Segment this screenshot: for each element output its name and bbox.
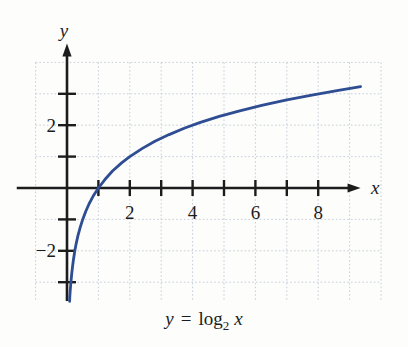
caption-log-base: 2 bbox=[223, 318, 230, 333]
x-tick-label: 2 bbox=[125, 202, 135, 223]
y-tick-label: 2 bbox=[47, 115, 57, 136]
x-tick-label: 4 bbox=[188, 202, 198, 223]
caption-var-y: y bbox=[165, 308, 173, 329]
figure-log2-plot: 24682−2 y x y=log2x bbox=[0, 0, 408, 347]
caption-log: log bbox=[198, 308, 222, 329]
figure-caption: y=log2x bbox=[0, 308, 408, 332]
x-tick-label: 8 bbox=[313, 202, 323, 223]
plot-svg: 24682−2 bbox=[0, 0, 408, 347]
y-axis-arrow-icon bbox=[62, 44, 71, 57]
y-tick-label: −2 bbox=[36, 240, 56, 261]
x-axis-label: x bbox=[371, 178, 379, 197]
y-axis-label: y bbox=[54, 21, 74, 40]
caption-equals: = bbox=[181, 308, 192, 329]
x-tick-label: 6 bbox=[251, 202, 261, 223]
caption-var-x: x bbox=[234, 308, 242, 329]
log2-curve bbox=[70, 87, 361, 302]
x-axis-arrow-icon bbox=[348, 183, 361, 192]
